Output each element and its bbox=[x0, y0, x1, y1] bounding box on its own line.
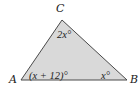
vertex-label-a: A bbox=[9, 74, 17, 85]
angle-label-c: 2x° bbox=[57, 29, 71, 40]
angle-label-a: (x + 12)° bbox=[29, 70, 68, 81]
triangle-shape bbox=[0, 0, 140, 90]
angle-label-b: x° bbox=[101, 70, 110, 81]
vertex-label-b: B bbox=[130, 74, 138, 85]
triangle-diagram: C A B 2x° (x + 12)° x° bbox=[0, 0, 140, 90]
vertex-label-c: C bbox=[56, 3, 64, 14]
